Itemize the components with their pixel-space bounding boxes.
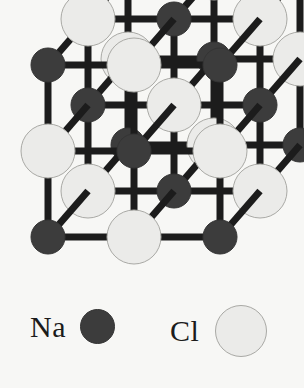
legend: Na Cl [0,303,304,388]
atom-na [31,48,65,82]
lattice-layers [21,0,304,264]
legend-label-cl: Cl [170,316,199,346]
atom-cl [21,124,75,178]
atom-na [203,48,237,82]
na-atom-swatch-icon [80,309,115,344]
atom-na [203,220,237,254]
legend-entry-na: Na [30,309,115,344]
crystal-lattice-diagram [0,0,304,300]
lattice-slab [21,19,260,264]
atom-cl [193,124,247,178]
cl-atom-swatch-icon [215,305,267,357]
atom-na [117,134,151,168]
atom-cl [107,210,161,264]
atom-na [31,220,65,254]
legend-entry-cl: Cl [170,305,267,357]
nacl-lattice-figure: Na Cl [0,0,304,388]
legend-label-na: Na [30,312,66,342]
atom-cl [107,38,161,92]
